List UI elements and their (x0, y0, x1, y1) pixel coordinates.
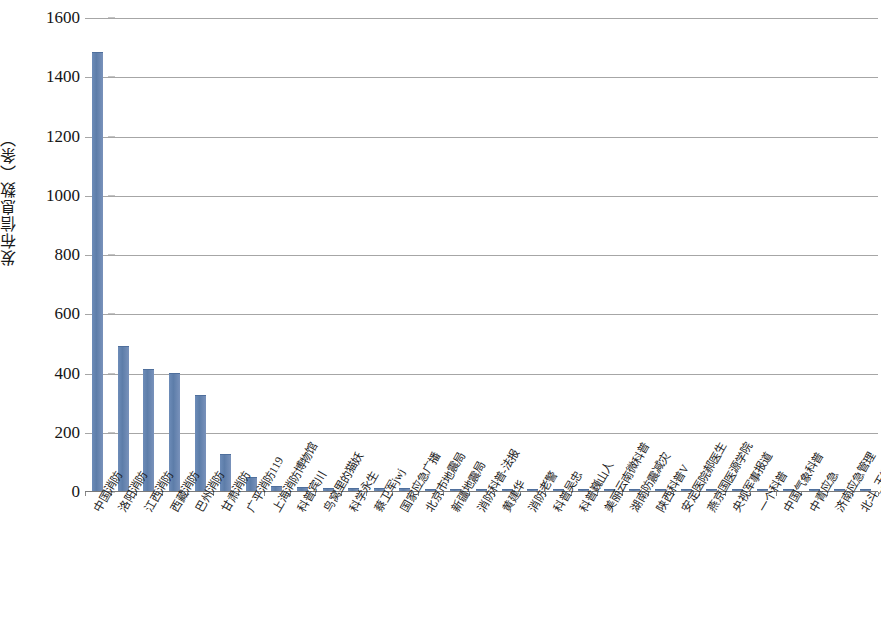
x-axis-label: 美丽云南微科普 (600, 506, 614, 514)
y-tick-label: 600 (34, 304, 80, 324)
y-tick-label: 400 (34, 364, 80, 384)
x-axis-label: 甘肃消防 (217, 506, 231, 514)
x-axis-label: 陕西科普V (652, 506, 666, 514)
x-axis-label: 中国气象科普 (780, 506, 794, 514)
x-axis-label: 科普宾川 (293, 506, 307, 514)
x-axis-label: 巴州消防 (191, 506, 205, 514)
y-axis-tick-labels: 02004006008001000120014001600 (30, 0, 80, 632)
x-axis-label: 蔡卫军jwj (370, 506, 384, 514)
y-axis-title: 发布信息数（条） (2, 130, 32, 266)
x-axis-label: 湖南防震减灾 (626, 506, 640, 514)
x-axis-label: 安定医院郝医生 (677, 506, 691, 514)
x-axis-label: 科普吴忠 (549, 506, 563, 514)
x-axis-label: 广平消防119 (242, 506, 256, 514)
bar-chart-figure: 发布信息数（条） 02004006008001000120014001600 中… (0, 0, 881, 632)
x-axis-label: 科学永生 (345, 506, 359, 514)
x-axis-label: 中国消防 (89, 506, 103, 514)
y-tick-label: 1600 (34, 8, 80, 28)
x-axis-label: 西藏消防 (166, 506, 180, 514)
x-axis-label: 济南应急管理 (831, 506, 845, 514)
y-tick-label: 1200 (34, 127, 80, 147)
x-axis-label: 央视军事报道 (728, 506, 742, 514)
x-axis-label: 洛阳消防 (114, 506, 128, 514)
x-axis-label: 燕京国医源学院 (703, 506, 717, 514)
x-axis-label: 一个科普 (754, 506, 768, 514)
x-axis-label: 黄建华 (498, 506, 512, 514)
x-axis-label: 新疆地震局 (447, 506, 461, 514)
y-tick-label: 1400 (34, 67, 80, 87)
bar (118, 346, 129, 491)
x-axis-label: 北京市地震局 (421, 506, 435, 514)
y-tick-label: 200 (34, 423, 80, 443)
y-tick-label: 0 (34, 482, 80, 502)
y-tick-label: 800 (34, 245, 80, 265)
y-tick-label: 1000 (34, 186, 80, 206)
x-axis-label: 鸟窝里的猫妖 (319, 506, 333, 514)
x-axis-label: 上海消防博物馆 (268, 506, 282, 514)
bar-series (85, 18, 878, 492)
x-axis-label: 消防老警 (524, 506, 538, 514)
x-axis-label: 消防科普-法报 (473, 506, 487, 514)
x-axis-label: 江西消防 (140, 506, 154, 514)
x-tick-mark (85, 492, 86, 496)
x-axis-label: 北斗_玉衡 (856, 506, 870, 514)
plot-area (85, 18, 878, 492)
x-axis-label: 国家应急广播 (396, 506, 410, 514)
bar (92, 52, 103, 491)
x-axis-label: 中青应急 (805, 506, 819, 514)
x-axis-label: 科普巍山人 (575, 506, 589, 514)
